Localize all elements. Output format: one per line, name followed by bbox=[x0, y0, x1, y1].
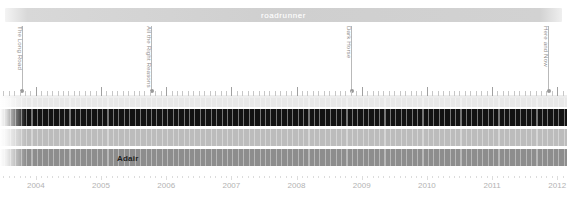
ruler-tick-minor bbox=[74, 91, 75, 96]
timeline-band[interactable] bbox=[0, 98, 567, 107]
ruler-tick-minor bbox=[177, 91, 178, 96]
ruler-tick-minor bbox=[280, 91, 281, 96]
axis-tick bbox=[307, 176, 308, 178]
axis-tick bbox=[166, 176, 167, 180]
axis-tick bbox=[530, 176, 531, 178]
axis-tick bbox=[508, 176, 509, 178]
axis-label-year: 2005 bbox=[92, 181, 110, 190]
axis-tick bbox=[427, 176, 428, 180]
ruler-tick-minor bbox=[182, 91, 183, 96]
axis-tick bbox=[362, 176, 363, 180]
axis-tick bbox=[389, 176, 390, 178]
axis-tick bbox=[231, 176, 232, 180]
ruler-tick-minor bbox=[128, 91, 129, 96]
ruler-tick-minor bbox=[421, 91, 422, 96]
axis-tick bbox=[182, 176, 183, 178]
ruler-tick-minor bbox=[30, 91, 31, 96]
ruler-tick-major bbox=[492, 87, 493, 96]
ruler-tick-minor bbox=[68, 91, 69, 96]
axis-tick bbox=[546, 176, 547, 178]
band-left-fade bbox=[0, 109, 26, 126]
ruler-tick-minor bbox=[373, 91, 374, 96]
axis-tick bbox=[193, 176, 194, 178]
ruler-tick-minor bbox=[248, 91, 249, 96]
ruler-tick-minor bbox=[335, 91, 336, 96]
band-separators bbox=[0, 149, 567, 166]
band-separators bbox=[0, 98, 567, 107]
axis-tick bbox=[90, 176, 91, 178]
ruler-tick-minor bbox=[79, 91, 80, 96]
axis-tick bbox=[36, 176, 37, 180]
ruler-tick-minor bbox=[519, 91, 520, 96]
ruler-tick-major bbox=[166, 87, 167, 96]
ruler-tick-minor bbox=[400, 91, 401, 96]
band-separators bbox=[0, 129, 567, 146]
axis-label-year: 2011 bbox=[483, 181, 500, 190]
timeline-band[interactable]: Adair bbox=[0, 149, 567, 166]
axis-tick bbox=[503, 176, 504, 178]
ruler-tick-minor bbox=[367, 91, 368, 96]
axis-tick bbox=[318, 176, 319, 178]
axis-label-year: 2009 bbox=[353, 181, 371, 190]
annotation-marker-group: The Long RoadAll the Right ReasonsDark H… bbox=[0, 26, 567, 92]
axis-tick bbox=[161, 176, 162, 178]
ruler-tick-major bbox=[427, 87, 428, 96]
annotation-marker[interactable]: Here and Now bbox=[548, 26, 549, 92]
axis-tick bbox=[291, 176, 292, 178]
axis-tick bbox=[297, 176, 298, 180]
ruler-tick-minor bbox=[411, 91, 412, 96]
axis-tick bbox=[242, 176, 243, 178]
annotation-marker[interactable]: The Long Road bbox=[22, 26, 23, 92]
axis-tick bbox=[123, 176, 124, 178]
ruler-tick-minor bbox=[563, 91, 564, 96]
ruler-tick-minor bbox=[536, 91, 537, 96]
timeline-band[interactable] bbox=[0, 129, 567, 146]
axis-tick bbox=[52, 176, 53, 178]
ruler-tick-major bbox=[101, 87, 102, 96]
ruler-tick-minor bbox=[210, 91, 211, 96]
axis-tick bbox=[14, 176, 15, 178]
ruler-tick-minor bbox=[52, 91, 53, 96]
axis-tick bbox=[269, 176, 270, 178]
ruler-tick-minor bbox=[329, 91, 330, 96]
ruler-tick-minor bbox=[221, 91, 222, 96]
ruler-tick-minor bbox=[215, 91, 216, 96]
ruler-tick-minor bbox=[497, 91, 498, 96]
axis-tick bbox=[275, 176, 276, 178]
ruler-tick-minor bbox=[546, 91, 547, 96]
ruler-tick-minor bbox=[286, 91, 287, 96]
ruler-tick-minor bbox=[47, 91, 48, 96]
axis-tick bbox=[383, 176, 384, 178]
ruler-tick-minor bbox=[106, 91, 107, 96]
axis-tick bbox=[253, 176, 254, 178]
axis-tick bbox=[557, 176, 558, 180]
ruler-tick-minor bbox=[96, 91, 97, 96]
axis-tick bbox=[552, 176, 553, 178]
axis-tick bbox=[356, 176, 357, 178]
axis-tick bbox=[443, 176, 444, 178]
ruler-tick-minor bbox=[307, 91, 308, 96]
axis-tick bbox=[459, 176, 460, 178]
annotation-marker[interactable]: All the Right Reasons bbox=[151, 26, 152, 92]
ruler-tick-minor bbox=[389, 91, 390, 96]
axis-tick bbox=[237, 176, 238, 178]
timeline-band[interactable] bbox=[0, 109, 567, 126]
annotation-label: Dark Horse bbox=[346, 26, 353, 58]
axis-tick bbox=[340, 176, 341, 178]
axis-tick bbox=[541, 176, 542, 178]
axis-tick bbox=[150, 176, 151, 178]
axis-tick bbox=[487, 176, 488, 178]
axis-tick bbox=[465, 176, 466, 178]
axis-tick bbox=[492, 176, 493, 180]
ruler-tick-minor bbox=[514, 91, 515, 96]
axis-tick bbox=[351, 176, 352, 178]
annotation-marker[interactable]: Dark Horse bbox=[351, 26, 352, 92]
page-title: roadrunner bbox=[261, 11, 306, 20]
axis-tick bbox=[335, 176, 336, 178]
ruler-tick-minor bbox=[123, 91, 124, 96]
axis-tick bbox=[101, 176, 102, 180]
axis-tick bbox=[497, 176, 498, 178]
band-label: Adair bbox=[117, 153, 138, 162]
axis-label-year: 2008 bbox=[288, 181, 306, 190]
axis-tick bbox=[79, 176, 80, 178]
